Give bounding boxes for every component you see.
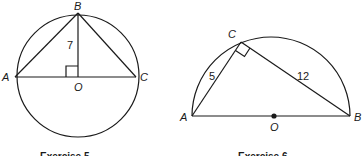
label-o: O bbox=[74, 81, 83, 93]
figure-exercise-6: C A B O 5 12 Exercise 6 bbox=[179, 28, 361, 156]
label-a: A bbox=[179, 111, 187, 123]
right-angle-marker bbox=[66, 66, 78, 77]
segment-cb bbox=[241, 42, 350, 116]
caption: Exercise 6 bbox=[238, 151, 288, 156]
label-a: A bbox=[1, 71, 9, 83]
label-c: C bbox=[228, 28, 236, 40]
label-c: C bbox=[140, 71, 148, 83]
measure-cb: 12 bbox=[297, 70, 309, 82]
right-angle-marker bbox=[236, 48, 251, 57]
figure-exercise-5: B A C O 7 Exercise 5 bbox=[1, 0, 148, 156]
label-b: B bbox=[354, 111, 361, 123]
center-point bbox=[271, 113, 276, 118]
segment-ac bbox=[192, 42, 241, 116]
diagram-canvas: B A C O 7 Exercise 5 C A B O 5 12 Exerci… bbox=[0, 0, 364, 156]
semicircle-arc bbox=[192, 37, 350, 116]
measure-ac: 5 bbox=[209, 70, 215, 82]
caption: Exercise 5 bbox=[40, 151, 90, 156]
label-o: O bbox=[270, 121, 279, 133]
measure-ob: 7 bbox=[67, 39, 73, 51]
label-b: B bbox=[74, 0, 81, 12]
